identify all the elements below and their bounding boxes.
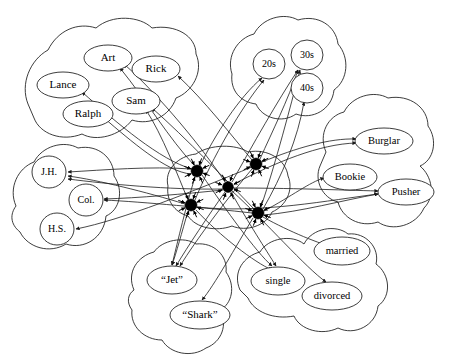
edge-inst1-to-20s (200, 78, 262, 166)
hub-spoke-icon (185, 174, 191, 177)
node-40s[interactable]: 40s (291, 73, 323, 103)
node-single[interactable]: single (251, 267, 305, 295)
edge-inst4-to-sam (146, 110, 188, 200)
node-label-divorced: divorced (314, 290, 351, 301)
node-rick[interactable]: Rick (132, 56, 180, 82)
instance-unit-dot[interactable] (252, 207, 264, 219)
node-label-art: Art (101, 51, 116, 63)
hub-spoke-icon (251, 170, 253, 177)
node-label-sam: Sam (126, 94, 146, 106)
node-ralph[interactable]: Ralph (63, 101, 113, 127)
instance-unit-dot[interactable] (191, 165, 203, 177)
node-label-burglar: Burglar (368, 135, 400, 146)
network-diagram: ArtRickLanceSamRalph20s30s40sBurglarBook… (0, 0, 452, 361)
node-col[interactable]: Col. (69, 184, 103, 216)
node-divorced[interactable]: divorced (302, 282, 362, 310)
hub-spoke-icon (252, 201, 255, 207)
node-bookie[interactable]: Bookie (323, 164, 377, 190)
node-label-hs: H.S. (48, 223, 66, 234)
edge-inst5-to-shark (202, 218, 253, 300)
hub-spoke-icon (215, 182, 222, 184)
hub-spoke-icon (253, 219, 255, 226)
node-pusher[interactable]: Pusher (378, 179, 434, 205)
node-jh[interactable]: J.H. (32, 156, 66, 188)
hub-spoke-icon (193, 192, 195, 199)
node-20s[interactable]: 20s (253, 49, 285, 79)
hub-spoke-icon (194, 211, 197, 217)
node-jet[interactable]: “Jet” (147, 266, 197, 294)
node-label-jh: J.H. (41, 166, 57, 177)
hub-spoke-icon (203, 165, 209, 168)
node-sam[interactable]: Sam (112, 88, 160, 114)
hub-spoke-icon (250, 152, 253, 158)
node-label-col: Col. (78, 194, 95, 205)
node-label-married: married (326, 245, 359, 256)
node-label-ralph: Ralph (75, 107, 102, 119)
hub-spoke-icon (200, 177, 203, 183)
node-burglar[interactable]: Burglar (355, 128, 413, 154)
node-label-jet: “Jet” (161, 273, 183, 285)
edge-inst3-to-30s (232, 70, 298, 182)
node-label-shark: “Shark” (182, 308, 218, 320)
instance-unit-dot[interactable] (223, 182, 234, 193)
node-label-40s: 40s (300, 82, 314, 93)
node-label-20s: 20s (262, 58, 276, 69)
node-label-single: single (265, 275, 290, 286)
instance-unit-dot[interactable] (250, 158, 262, 170)
hub-spoke-icon (179, 208, 185, 211)
node-inst1[interactable] (184, 158, 209, 183)
node-art[interactable]: Art (84, 45, 132, 71)
unit-nodes: ArtRickLanceSamRalph20s30s40sBurglarBook… (32, 40, 434, 329)
node-hs[interactable]: H.S. (40, 213, 74, 245)
pool-outline-occupations (318, 94, 434, 226)
pool-outline-ages (230, 16, 345, 118)
hub-spoke-icon (197, 199, 203, 202)
diagram-canvas: ArtRickLanceSamRalph20s30s40sBurglarBook… (0, 0, 452, 361)
hub-spoke-icon (246, 216, 252, 219)
node-30s[interactable]: 30s (291, 40, 323, 70)
edge-inst5-to-pusher (264, 194, 378, 215)
node-label-30s: 30s (300, 49, 314, 60)
node-label-bookie: Bookie (335, 171, 366, 182)
pool-outline-gangs (128, 240, 231, 354)
edge-inst5-to-bookie (264, 178, 324, 211)
node-shark[interactable]: “Shark” (170, 301, 230, 329)
instance-unit-dot[interactable] (185, 199, 197, 211)
node-married[interactable]: married (314, 237, 370, 265)
hub-spoke-icon (258, 151, 260, 158)
node-label-rick: Rick (146, 62, 167, 74)
edge-inst1-to-art (120, 68, 194, 165)
edge-inst1-to-jh (68, 168, 191, 172)
node-label-pusher: Pusher (392, 186, 421, 197)
node-lance[interactable]: Lance (37, 72, 89, 98)
edge-inst1-to-jet (172, 177, 195, 265)
edge-inst2-to-jet (180, 169, 252, 266)
node-label-lance: Lance (50, 78, 77, 90)
